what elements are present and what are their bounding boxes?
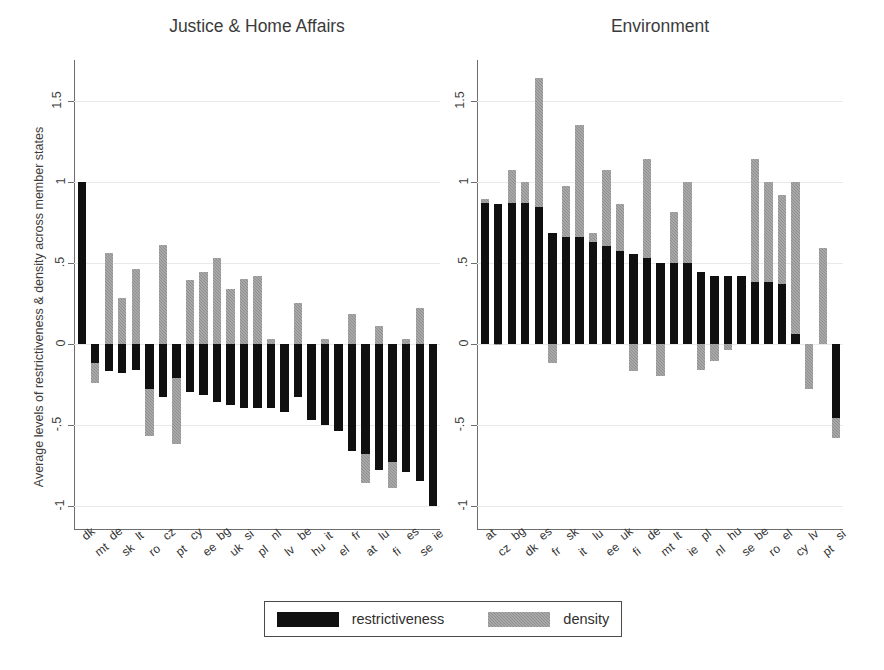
restrictiveness-bar[interactable] bbox=[105, 344, 113, 372]
restrictiveness-bar[interactable] bbox=[402, 344, 410, 472]
bar-slot[interactable] bbox=[429, 60, 437, 530]
bar-slot[interactable] bbox=[348, 60, 356, 530]
restrictiveness-bar[interactable] bbox=[629, 254, 637, 343]
restrictiveness-bar[interactable] bbox=[643, 258, 651, 344]
restrictiveness-bar[interactable] bbox=[348, 344, 356, 451]
restrictiveness-bar[interactable] bbox=[159, 344, 167, 397]
restrictiveness-bar[interactable] bbox=[294, 344, 302, 397]
restrictiveness-bar[interactable] bbox=[778, 284, 786, 344]
restrictiveness-bar[interactable] bbox=[280, 344, 288, 412]
restrictiveness-bar[interactable] bbox=[575, 237, 583, 344]
bar-slot[interactable] bbox=[548, 60, 556, 530]
bar-slot[interactable] bbox=[575, 60, 583, 530]
bar-slot[interactable] bbox=[78, 60, 86, 530]
density-bar[interactable] bbox=[819, 248, 827, 344]
restrictiveness-bar[interactable] bbox=[710, 276, 718, 344]
restrictiveness-bar[interactable] bbox=[388, 344, 396, 462]
restrictiveness-bar[interactable] bbox=[724, 276, 732, 344]
bar-slot[interactable] bbox=[186, 60, 194, 530]
bar-slot[interactable] bbox=[375, 60, 383, 530]
restrictiveness-bar[interactable] bbox=[548, 233, 556, 343]
bar-slot[interactable] bbox=[91, 60, 99, 530]
restrictiveness-bar[interactable] bbox=[832, 344, 840, 419]
restrictiveness-bar[interactable] bbox=[697, 272, 705, 343]
density-bar[interactable] bbox=[375, 326, 383, 344]
restrictiveness-bar[interactable] bbox=[132, 344, 140, 370]
density-bar[interactable] bbox=[416, 308, 424, 344]
bar-slot[interactable] bbox=[832, 60, 840, 530]
bar-slot[interactable] bbox=[535, 60, 543, 530]
bar-slot[interactable] bbox=[361, 60, 369, 530]
restrictiveness-bar[interactable] bbox=[172, 344, 180, 378]
bar-slot[interactable] bbox=[764, 60, 772, 530]
bar-slot[interactable] bbox=[199, 60, 207, 530]
restrictiveness-bar[interactable] bbox=[764, 282, 772, 344]
restrictiveness-bar[interactable] bbox=[213, 344, 221, 402]
restrictiveness-bar[interactable] bbox=[656, 263, 664, 344]
restrictiveness-bar[interactable] bbox=[253, 344, 261, 409]
restrictiveness-bar[interactable] bbox=[226, 344, 234, 406]
bar-slot[interactable] bbox=[159, 60, 167, 530]
restrictiveness-bar[interactable] bbox=[91, 344, 99, 363]
density-bar[interactable] bbox=[805, 344, 813, 389]
bar-slot[interactable] bbox=[589, 60, 597, 530]
bar-slot[interactable] bbox=[280, 60, 288, 530]
bar-slot[interactable] bbox=[508, 60, 516, 530]
bar-slot[interactable] bbox=[724, 60, 732, 530]
bar-slot[interactable] bbox=[253, 60, 261, 530]
bar-slot[interactable] bbox=[334, 60, 342, 530]
restrictiveness-bar[interactable] bbox=[521, 203, 529, 344]
density-bar[interactable] bbox=[253, 276, 261, 344]
bar-slot[interactable] bbox=[616, 60, 624, 530]
restrictiveness-bar[interactable] bbox=[118, 344, 126, 373]
restrictiveness-bar[interactable] bbox=[361, 344, 369, 454]
bar-slot[interactable] bbox=[132, 60, 140, 530]
density-bar[interactable] bbox=[199, 272, 207, 343]
restrictiveness-bar[interactable] bbox=[186, 344, 194, 393]
restrictiveness-bar[interactable] bbox=[481, 203, 489, 344]
bar-slot[interactable] bbox=[105, 60, 113, 530]
bar-slot[interactable] bbox=[521, 60, 529, 530]
bar-slot[interactable] bbox=[683, 60, 691, 530]
density-bar[interactable] bbox=[629, 344, 637, 372]
density-bar[interactable] bbox=[494, 344, 502, 346]
bar-slot[interactable] bbox=[737, 60, 745, 530]
bar-slot[interactable] bbox=[656, 60, 664, 530]
bar-slot[interactable] bbox=[562, 60, 570, 530]
restrictiveness-bar[interactable] bbox=[751, 282, 759, 344]
density-bar[interactable] bbox=[548, 344, 556, 363]
bar-slot[interactable] bbox=[791, 60, 799, 530]
bar-slot[interactable] bbox=[697, 60, 705, 530]
restrictiveness-bar[interactable] bbox=[321, 344, 329, 425]
bar-slot[interactable] bbox=[602, 60, 610, 530]
bar-slot[interactable] bbox=[294, 60, 302, 530]
density-bar[interactable] bbox=[710, 344, 718, 362]
bar-slot[interactable] bbox=[751, 60, 759, 530]
bar-slot[interactable] bbox=[805, 60, 813, 530]
bar-slot[interactable] bbox=[307, 60, 315, 530]
restrictiveness-bar[interactable] bbox=[602, 246, 610, 343]
restrictiveness-bar[interactable] bbox=[562, 237, 570, 344]
restrictiveness-bar[interactable] bbox=[670, 263, 678, 344]
density-bar[interactable] bbox=[791, 182, 799, 344]
density-bar[interactable] bbox=[240, 279, 248, 344]
bar-slot[interactable] bbox=[240, 60, 248, 530]
restrictiveness-bar[interactable] bbox=[683, 263, 691, 344]
density-bar[interactable] bbox=[105, 253, 113, 344]
bar-slot[interactable] bbox=[416, 60, 424, 530]
density-bar[interactable] bbox=[132, 269, 140, 344]
bar-slot[interactable] bbox=[388, 60, 396, 530]
restrictiveness-bar[interactable] bbox=[416, 344, 424, 482]
restrictiveness-bar[interactable] bbox=[737, 276, 745, 344]
bar-slot[interactable] bbox=[267, 60, 275, 530]
bar-slot[interactable] bbox=[145, 60, 153, 530]
restrictiveness-bar[interactable] bbox=[791, 334, 799, 344]
restrictiveness-bar[interactable] bbox=[199, 344, 207, 396]
restrictiveness-bar[interactable] bbox=[145, 344, 153, 389]
bar-slot[interactable] bbox=[213, 60, 221, 530]
restrictiveness-bar[interactable] bbox=[334, 344, 342, 432]
bar-slot[interactable] bbox=[819, 60, 827, 530]
bar-slot[interactable] bbox=[643, 60, 651, 530]
restrictiveness-bar[interactable] bbox=[616, 251, 624, 343]
restrictiveness-bar[interactable] bbox=[267, 344, 275, 409]
